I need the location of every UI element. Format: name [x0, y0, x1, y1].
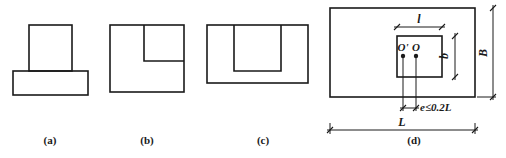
panel-a-base: [13, 71, 88, 95]
point-O-prime-label: O': [398, 41, 409, 53]
panel-c-label: (c): [257, 134, 270, 147]
dim-l: l: [394, 12, 445, 30]
panel-c: (c): [207, 25, 308, 147]
panel-b: (b): [110, 25, 184, 147]
panel-d-label: (d): [407, 134, 421, 147]
dim-b: b: [437, 33, 458, 80]
panel-c-outer: [207, 25, 308, 83]
dim-e: e≤0.2L: [400, 101, 452, 113]
dim-B: B: [476, 5, 496, 100]
panel-d: l b B O' O: [327, 5, 496, 147]
dim-L-label: L: [397, 115, 405, 129]
foundation-diagram: (a) (b) (c) l b: [0, 0, 506, 158]
panel-b-label: (b): [140, 134, 154, 147]
dim-b-label: b: [437, 53, 451, 59]
panel-b-outer: [110, 25, 184, 92]
point-O-label: O: [412, 41, 420, 53]
panel-a-label: (a): [44, 134, 57, 147]
panel-a-column: [29, 25, 72, 71]
dim-B-label: B: [476, 49, 490, 58]
panel-a: (a): [13, 25, 88, 147]
centroid-points: O' O: [398, 41, 421, 111]
panel-c-inner: [234, 25, 281, 71]
eccentricity-label: e≤0.2L: [420, 101, 452, 113]
dim-L: L: [327, 115, 478, 134]
dim-l-label: l: [417, 12, 421, 26]
panel-b-inner: [144, 25, 184, 61]
